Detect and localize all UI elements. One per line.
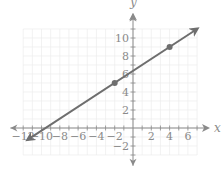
y-tick-label: 2 <box>122 104 129 117</box>
x-axis-label: x <box>214 121 221 135</box>
x-tick-label: 2 <box>148 130 155 143</box>
x-tick-label: −8 <box>52 130 68 143</box>
y-tick-label: −2 <box>113 140 129 153</box>
x-tick-label: −4 <box>88 130 104 143</box>
x-tick-label: 6 <box>184 130 191 143</box>
data-point <box>112 80 118 86</box>
data-line <box>28 29 197 140</box>
y-axis-label: y <box>129 0 137 9</box>
axes <box>10 15 208 166</box>
y-tick-label: 8 <box>122 50 129 63</box>
y-tick-label: 10 <box>115 32 129 45</box>
data-point <box>167 44 173 50</box>
y-tick-label: 4 <box>122 86 129 99</box>
x-tick-label: −6 <box>70 130 86 143</box>
coordinate-graph: −12−10−8−6−4−2246−2246810 x y <box>0 0 223 173</box>
x-tick-label: 4 <box>166 130 173 143</box>
